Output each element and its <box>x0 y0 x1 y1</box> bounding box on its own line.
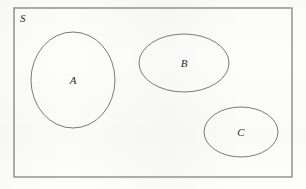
set-a-label: A <box>69 74 77 86</box>
universal-set-label: S <box>20 12 26 24</box>
universal-set-rectangle <box>14 8 292 177</box>
set-c-label: C <box>237 126 245 138</box>
diagram-canvas: S A B C <box>0 0 306 189</box>
set-diagram-figure: S A B C <box>0 0 306 189</box>
set-b-label: B <box>181 57 188 69</box>
